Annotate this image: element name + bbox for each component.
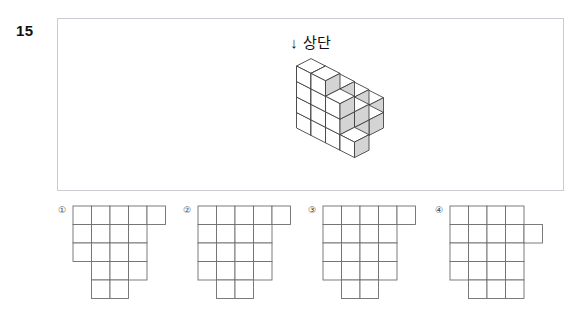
option-4-grid: [448, 204, 552, 308]
answer-option-3[interactable]: ③: [305, 200, 430, 312]
option-1-grid: [71, 204, 175, 308]
cube-stack-svg: [58, 19, 565, 192]
question-page: 15 ↓상단 ① ② ③ ④: [0, 0, 573, 319]
answer-option-1[interactable]: ①: [55, 200, 180, 312]
option-2-grid-svg: [196, 204, 300, 308]
option-4-grid-svg: [448, 204, 552, 308]
option-1-marker: ①: [55, 204, 69, 216]
cube-stack-figure: [58, 19, 565, 192]
option-2-grid: [196, 204, 300, 308]
option-1-grid-svg: [71, 204, 175, 308]
option-4-marker: ④: [432, 204, 446, 216]
answer-option-2[interactable]: ②: [180, 200, 305, 312]
option-2-marker: ②: [180, 204, 194, 216]
option-3-grid: [321, 204, 425, 308]
answer-options: ① ② ③ ④: [0, 200, 573, 312]
question-number: 15: [16, 22, 33, 39]
figure-panel: ↓상단: [57, 18, 564, 191]
option-3-grid-svg: [321, 204, 425, 308]
option-3-marker: ③: [305, 204, 319, 216]
answer-option-4[interactable]: ④: [432, 200, 557, 312]
